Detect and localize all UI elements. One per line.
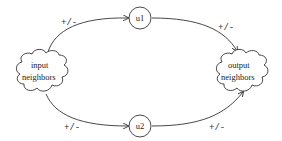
svg-text:neighbors: neighbors <box>221 72 255 82</box>
node-input-neighbors: input neighbors <box>16 49 68 91</box>
edge-u2-output <box>152 92 243 126</box>
edge-label-u2-output: +/- <box>209 123 225 133</box>
edge-label-input-u2: +/- <box>64 123 80 133</box>
svg-text:input: input <box>31 60 49 70</box>
svg-text:u2: u2 <box>136 121 145 131</box>
edge-input-u1 <box>48 18 128 52</box>
edge-input-u2 <box>46 94 128 126</box>
cloud-icon <box>216 49 268 91</box>
svg-text:u1: u1 <box>136 13 145 23</box>
edge-label-u1-output: +/- <box>218 23 234 33</box>
svg-text:output: output <box>228 60 250 70</box>
node-u1: u1 <box>129 7 151 29</box>
node-output-neighbors: output neighbors <box>216 49 268 91</box>
svg-text:neighbors: neighbors <box>22 72 56 82</box>
edge-label-input-u1: +/- <box>61 18 77 28</box>
diagram-canvas: +/- +/- +/- +/- input neighbors output n… <box>0 0 282 141</box>
node-u2: u2 <box>129 115 151 137</box>
cloud-icon <box>16 49 68 91</box>
